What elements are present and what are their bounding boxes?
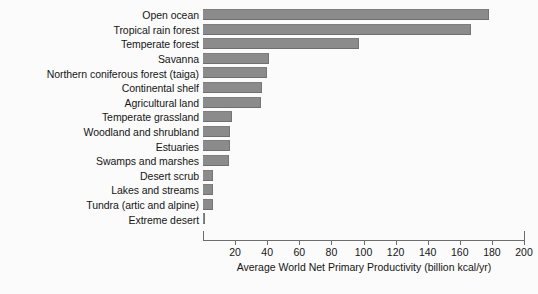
x-tick-label: 140	[419, 246, 437, 258]
chart-row: Extreme desert	[0, 212, 538, 227]
category-label: Desert scrub	[0, 170, 199, 182]
bar-chart: Open oceanTropical rain forestTemperate …	[0, 0, 538, 294]
bar-track	[203, 111, 232, 122]
bar	[203, 9, 489, 20]
bar	[203, 53, 269, 64]
chart-row: Tropical rain forest	[0, 23, 538, 38]
chart-row: Temperate forest	[0, 37, 538, 52]
bar	[203, 213, 205, 224]
category-label: Open ocean	[0, 9, 199, 21]
bar-track	[203, 24, 471, 35]
x-tick	[299, 241, 300, 245]
x-tick	[492, 241, 493, 245]
x-tick	[364, 241, 365, 245]
x-tick	[428, 241, 429, 245]
x-tick-label: 80	[326, 246, 338, 258]
bar-track	[203, 67, 267, 78]
bar	[203, 170, 213, 181]
chart-row: Open ocean	[0, 8, 538, 23]
category-label: Agricultural land	[0, 97, 199, 109]
bar	[203, 67, 267, 78]
category-label: Temperate grassland	[0, 111, 199, 123]
bar	[203, 126, 230, 137]
category-label: Savanna	[0, 53, 199, 65]
x-tick	[396, 241, 397, 245]
bar	[203, 184, 213, 195]
x-tick	[460, 241, 461, 245]
bar-track	[203, 199, 213, 210]
bar-track	[203, 82, 262, 93]
bar-track	[203, 97, 261, 108]
bar-track	[203, 38, 359, 49]
category-label: Temperate forest	[0, 38, 199, 50]
category-label: Swamps and marshes	[0, 155, 199, 167]
chart-row: Estuaries	[0, 139, 538, 154]
x-tick	[524, 241, 525, 245]
chart-plot-area: Open oceanTropical rain forestTemperate …	[0, 8, 538, 227]
bar-track	[203, 53, 269, 64]
bar-track	[203, 213, 205, 224]
category-label: Woodland and shrubland	[0, 126, 199, 138]
x-tick-label: 200	[515, 246, 533, 258]
bar	[203, 97, 261, 108]
x-tick-label: 20	[229, 246, 241, 258]
chart-row: Woodland and shrubland	[0, 125, 538, 140]
x-tick-label: 180	[483, 246, 501, 258]
x-tick	[331, 241, 332, 245]
bar-track	[203, 170, 213, 181]
chart-row: Northern coniferous forest (taiga)	[0, 66, 538, 81]
category-label: Extreme desert	[0, 214, 199, 226]
chart-row: Swamps and marshes	[0, 154, 538, 169]
category-label: Estuaries	[0, 141, 199, 153]
chart-row: Agricultural land	[0, 96, 538, 111]
chart-row: Lakes and streams	[0, 183, 538, 198]
category-label: Continental shelf	[0, 82, 199, 94]
x-tick-label: 100	[355, 246, 373, 258]
bar	[203, 155, 229, 166]
bar	[203, 111, 232, 122]
x-tick-label: 120	[387, 246, 405, 258]
x-tick-label: 160	[451, 246, 469, 258]
x-tick	[267, 241, 268, 245]
bar-track	[203, 140, 230, 151]
category-label: Northern coniferous forest (taiga)	[0, 68, 199, 80]
bar-track	[203, 155, 229, 166]
category-label: Tundra (artic and alpine)	[0, 199, 199, 211]
bar	[203, 199, 213, 210]
bar-track	[203, 9, 489, 20]
x-axis-title: Average World Net Primary Productivity (…	[203, 261, 525, 273]
bar	[203, 140, 230, 151]
bar-track	[203, 184, 213, 195]
x-tick-label: 60	[293, 246, 305, 258]
chart-row: Tundra (artic and alpine)	[0, 198, 538, 213]
x-tick	[235, 241, 236, 245]
chart-row: Continental shelf	[0, 81, 538, 96]
chart-row: Desert scrub	[0, 169, 538, 184]
bar	[203, 24, 471, 35]
bar-track	[203, 126, 230, 137]
category-label: Tropical rain forest	[0, 24, 199, 36]
bar	[203, 38, 359, 49]
chart-row: Temperate grassland	[0, 110, 538, 125]
x-tick-label: 40	[261, 246, 273, 258]
chart-row: Savanna	[0, 52, 538, 67]
category-label: Lakes and streams	[0, 184, 199, 196]
bar	[203, 82, 262, 93]
